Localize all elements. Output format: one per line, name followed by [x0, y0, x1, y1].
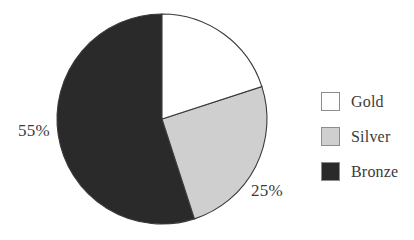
legend-label-bronze: Bronze [351, 163, 398, 181]
legend: Gold Silver Bronze [321, 84, 411, 189]
legend-swatch-bronze-icon [321, 162, 340, 181]
pie-label-silver: 25% [251, 181, 283, 201]
legend-swatch-silver-icon [321, 127, 340, 146]
legend-item-bronze[interactable]: Bronze [321, 154, 411, 189]
legend-label-gold: Gold [351, 93, 384, 111]
pie-label-bronze: 55% [18, 121, 50, 141]
pie-chart-graphic [0, 0, 300, 240]
legend-item-gold[interactable]: Gold [321, 84, 411, 119]
legend-swatch-gold-icon [321, 92, 340, 111]
pie-chart-figure: 55% 25% Gold Silver Bronze [0, 0, 414, 240]
legend-item-silver[interactable]: Silver [321, 119, 411, 154]
legend-label-silver: Silver [351, 128, 390, 146]
